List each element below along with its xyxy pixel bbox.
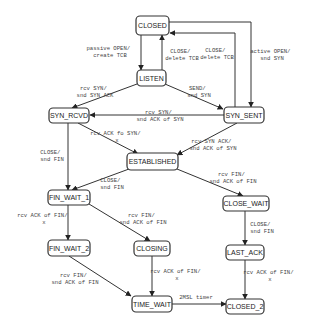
state-label: CLOSED [138,22,167,29]
label-line: snd SYN ACK [77,92,115,99]
state-time-wait: TIME_WAIT [132,296,172,312]
state-label: ESTABLISHED [129,158,177,165]
label-synrcvd-finwait1: CLOSE/ snd FIN [40,149,64,163]
state-closing: CLOSING [134,241,170,256]
label-line: rcv FIN/ [60,272,87,279]
label-line: SEND/ [189,85,206,92]
label-line: x [42,219,46,226]
state-label: FIN_WAIT_2 [49,245,89,253]
label-line: rcv ACK of FIN/ [17,212,68,219]
label-synsent-synrcvd: rcv SYN/ snd ACK of SYN [137,109,184,123]
state-listen: LISTEN [137,70,166,86]
label-line: x [115,137,119,144]
label-established-finwait1: CLOSE/ snd FIN [100,177,124,191]
label-listen-synsent: SEND/ snd SYN [187,85,211,99]
state-label: SYN_RCVD [50,112,88,120]
label-line: rcv ACK of FIN/ [243,269,294,276]
label-line: x [268,276,272,283]
state-fin-wait-1: FIN_WAIT_1 [48,190,90,205]
label-line: rcv FIN/ [218,171,245,178]
label-line: rcv SYN/ [80,85,107,92]
label-line: snd SYN [260,55,284,62]
label-line: snd FIN [40,156,64,163]
state-label: LISTEN [139,75,164,82]
label-line: snd ACK of FIN [52,279,99,286]
label-synrcvd-established: rcv ACK fo SYN/ x [90,130,144,144]
state-close-wait: CLOSE_WAIT [223,196,269,211]
label-closing-timewait: rcv ACK of FIN/ x [150,268,204,282]
state-fin-wait-2: FIN_WAIT_2 [48,240,90,256]
label-line: rcv SYN/ [145,109,172,116]
label-line: rcv ACK fo SYN/ [90,130,141,137]
label-line: CLOSE/ [40,149,61,156]
label-finwait2-timewait: rcv FIN/ snd ACK of FIN [52,272,99,286]
label-synsent-closed: CLOSE/ delete TCB [200,47,234,61]
state-closed-2: CLOSED_2 [226,299,264,314]
label-line: create TCB [93,52,127,59]
state-label: LAST_ACK [227,249,263,257]
label-line: rcv ACK of FIN/ [150,268,201,275]
label-closewait-lastack: CLOSE/ snd FIN [250,221,274,235]
label-finwait1-finwait2: rcv ACK of FIN/ x [17,212,71,226]
label-closed-synsent: active OPEN/ snd SYN [250,48,294,62]
state-label: CLOSED_2 [227,303,264,311]
label-line: CLOSE/ [250,221,271,228]
label-line: snd ACK of FIN [210,178,257,185]
state-syn-rcvd: SYN_RCVD [49,108,89,123]
state-label: CLOSING [136,245,168,252]
label-line: snd ACK of SYN [190,145,237,152]
label-line: snd SYN [187,92,211,99]
state-closed: CLOSED [136,16,169,35]
label-established-closewait: rcv FIN/ snd ACK of FIN [210,171,257,185]
label-lastack-closed2: rcv ACK of FIN/ x [243,269,297,283]
label-finwait1-closing: rcv FIN/ snd ACK of FIN [120,212,167,226]
label-listen-closed: CLOSE/ delete TCB [165,48,199,62]
state-syn-sent: SYN_SENT [224,107,264,123]
label-line: snd ACK of SYN [137,116,184,123]
state-label: SYN_SENT [226,112,264,120]
label-line: rcv SYN ACK/ [191,138,232,145]
label-line: snd ACK of FIN [120,219,167,226]
label-line: snd FIN [250,228,274,235]
label-closed-listen: passive OPEN/ create TCB [87,45,134,59]
state-label: FIN_WAIT_1 [49,194,89,202]
label-line: CLOSE/ [100,177,121,184]
tcp-state-diagram: passive OPEN/ create TCB CLOSE/ delete T… [0,0,311,327]
state-label: CLOSE_WAIT [224,200,270,208]
label-line: delete TCB [165,55,199,62]
state-label: TIME_WAIT [133,301,172,309]
state-last-ack: LAST_ACK [226,245,264,260]
label-line: x [175,275,179,282]
edge-synrcvd-established [78,123,138,154]
label-line: CLOSE/ [170,48,191,55]
label-line: delete TCB [200,54,234,61]
label-line: snd FIN [100,184,124,191]
state-established: ESTABLISHED [127,153,178,170]
label-line: rcv FIN/ [128,212,155,219]
label-line: active OPEN/ [250,48,291,55]
label-timewait-closed2: 2MSL timer [179,294,213,301]
label-line: CLOSE/ [205,47,226,54]
label-line: 2MSL timer [179,294,213,301]
label-line: passive OPEN/ [87,45,131,52]
label-listen-synrcvd: rcv SYN/ snd SYN ACK [77,85,115,99]
label-synsent-established: rcv SYN ACK/ snd ACK of SYN [190,138,237,152]
